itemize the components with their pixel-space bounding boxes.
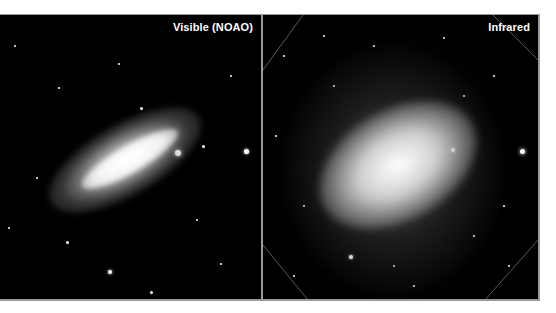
visible-panel: Visible (NOAO) xyxy=(0,15,261,299)
infrared-panel: Infrared xyxy=(263,15,538,299)
panel-label-visible: Visible (NOAO) xyxy=(173,21,253,33)
panel-label-infrared: Infrared xyxy=(488,21,530,33)
image-comparison-frame: Visible (NOAO) xyxy=(0,14,540,301)
